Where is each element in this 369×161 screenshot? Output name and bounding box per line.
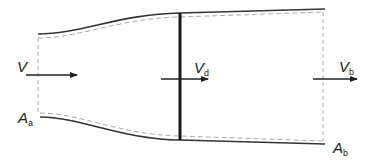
label-inlet-area: Aa — [17, 109, 33, 128]
label-outlet-area: Ab — [332, 139, 348, 158]
label-freestream-velocity: V — [17, 58, 29, 75]
label-disk-velocity: Vd — [194, 59, 209, 78]
stream-tube-diagram: V Vd Vb Aa Ab — [0, 0, 369, 161]
label-wake-velocity: Vb — [339, 58, 354, 77]
